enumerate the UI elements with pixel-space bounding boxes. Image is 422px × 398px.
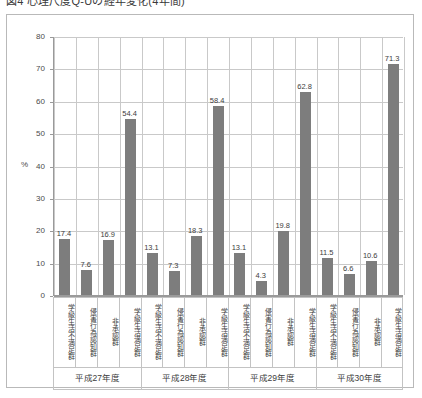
plot-right-border [404,37,405,295]
category-label: 非承認群 [360,299,381,365]
category-label: 学級生活満足群 [382,299,402,365]
category-label: 学級生活満足群 [207,299,228,365]
category-separator [142,37,143,295]
bar-value-label: 62.8 [285,83,325,91]
category-label: 侵害行為認知群 [338,299,359,365]
y-axis-tick-label: 50 [11,130,45,138]
y-axis-tick-label: 0 [11,292,45,300]
category-label: 学級生活不満足群 [317,299,338,365]
category-separator [251,37,252,295]
bar [344,274,355,295]
bar-value-label: 58.4 [197,97,237,105]
category-separator [163,37,164,295]
category-separator [229,37,230,295]
category-separator [54,37,55,295]
y-axis-tick-label: 80 [11,33,45,41]
bar [322,258,333,295]
category-separator [295,37,296,295]
bar-value-label: 18.3 [175,227,215,235]
category-cell: 非承認群 [272,297,294,367]
category-cell: 学級生活満足群 [206,297,228,367]
y-axis-tick-label: 30 [11,195,45,203]
year-group-cell: 平成29年度 [228,367,316,389]
year-group-cell: 平成28年度 [141,367,229,389]
category-cell: 学級生活不満足群 [53,297,75,367]
bar [213,106,224,295]
bar-value-label: 6.6 [328,265,368,273]
bar-value-label: 7.3 [153,262,193,270]
y-axis-tick-label: 10 [11,260,45,268]
y-axis-tick-label: 20 [11,227,45,235]
category-cell: 侵害行為認知群 [162,297,184,367]
category-label: 学級生活不満足群 [142,299,163,365]
category-separator [185,37,186,295]
bar [169,271,180,295]
category-cell: 学級生活不満足群 [228,297,250,367]
figure-title: 図4 心理尺度Q-Uの経年変化(4年間) [6,0,185,7]
category-cell: 侵害行為認知群 [75,297,97,367]
category-label: 侵害行為認知群 [163,299,184,365]
year-group-label: 平成28年度 [162,373,207,383]
category-separator [76,37,77,295]
bar-value-label: 16.9 [88,231,128,239]
year-row-bottom-rule [53,389,403,390]
bar-value-label: 19.8 [263,222,303,230]
bar [147,253,158,295]
y-axis-tick-label: 40 [11,163,45,171]
bar-value-label: 11.5 [306,249,346,257]
category-label: 学級生活満足群 [120,299,141,365]
y-axis-tick-label: 70 [11,65,45,73]
category-separator [98,37,99,295]
category-label: 非承認群 [273,299,294,365]
category-label: 非承認群 [185,299,206,365]
bar-value-label: 4.3 [241,272,281,280]
bar-value-label: 13.1 [219,244,259,252]
category-label: 学級生活満足群 [295,299,316,365]
year-group-label: 平成29年度 [250,373,295,383]
bar-value-label: 17.4 [44,230,84,238]
category-cell: 非承認群 [359,297,381,367]
year-group-cell: 平成27年度 [53,367,141,389]
category-cell: 学級生活不満足群 [316,297,338,367]
figure-container: 図4 心理尺度Q-Uの経年変化(4年間) % 01020304050607080… [0,0,422,398]
bar [256,281,267,295]
y-axis-tick-label: 60 [11,98,45,106]
category-label: 非承認群 [98,299,119,365]
chart-panel: % 01020304050607080 学級生活不満足群侵害行為認知群非承認群学… [6,14,414,388]
bar-value-label: 10.6 [350,252,390,260]
bar [300,92,311,295]
bar-value-label: 54.4 [110,110,150,118]
category-cell: 非承認群 [184,297,206,367]
category-cell: 学級生活満足群 [119,297,141,367]
category-cell: 侵害行為認知群 [250,297,272,367]
category-cell: 非承認群 [97,297,119,367]
bar-value-label: 7.6 [66,261,106,269]
category-label: 侵害行為認知群 [76,299,97,365]
category-label: 学級生活不満足群 [229,299,250,365]
bar [278,231,289,295]
bar [125,119,136,295]
bar [81,270,92,295]
bar-value-label: 13.1 [131,244,171,252]
category-separator [207,37,208,295]
category-cell: 侵害行為認知群 [337,297,359,367]
year-group-cell: 平成30年度 [316,367,404,389]
category-label: 侵害行為認知群 [251,299,272,365]
category-separator [120,37,121,295]
category-cell: 学級生活不満足群 [141,297,163,367]
category-cell: 学級生活満足群 [381,297,403,367]
category-label: 学級生活不満足群 [54,299,75,365]
year-group-label: 平成30年度 [337,373,382,383]
category-cell: 学級生活満足群 [294,297,316,367]
category-separator [273,37,274,295]
bar-value-label: 71.3 [372,55,412,63]
bar [388,64,399,295]
year-group-label: 平成27年度 [75,373,120,383]
